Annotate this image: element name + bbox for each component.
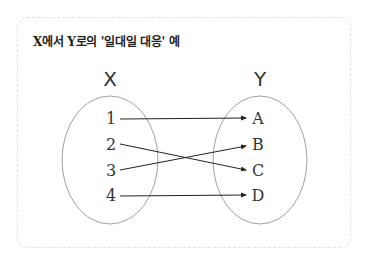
- set-y-label: Y: [253, 67, 267, 91]
- arrow-1-to-a: [120, 118, 246, 119]
- element-x-4: 4: [106, 186, 116, 205]
- element-y-b: B: [252, 135, 264, 154]
- arrow-4-to-d: [120, 195, 246, 196]
- set-x-label: X: [103, 67, 117, 91]
- element-x-3: 3: [106, 161, 116, 180]
- element-y-d: D: [252, 186, 265, 205]
- element-y-c: C: [252, 161, 264, 180]
- element-x-1: 1: [106, 109, 116, 128]
- element-x-2: 2: [106, 135, 116, 154]
- mapping-diagram: X Y 1 2 3 4 A B C D: [0, 0, 371, 263]
- element-y-a: A: [251, 109, 264, 128]
